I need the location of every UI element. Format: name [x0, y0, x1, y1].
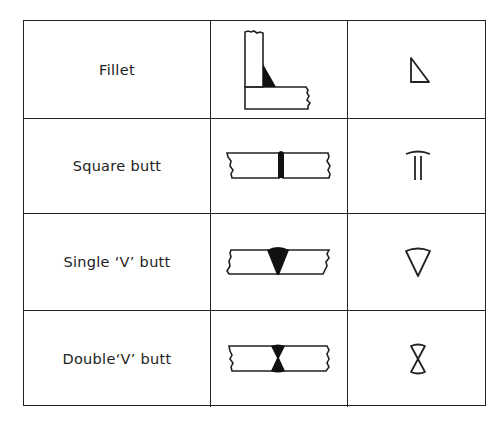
- fillet-weld-sketch-icon: [224, 24, 334, 116]
- single-v-symbol-icon: [398, 242, 438, 282]
- fillet-symbol-triangle-icon: [398, 50, 438, 90]
- symbol-cell: [347, 21, 487, 118]
- weld-type-cell: Fillet: [24, 21, 210, 118]
- symbol-cell: [347, 119, 487, 213]
- table-row-square-butt: Square butt: [24, 118, 485, 213]
- table-row-single-v-butt: Single ‘V’ butt: [24, 213, 485, 310]
- symbol-cell: [347, 214, 487, 310]
- weld-type-label: Fillet: [99, 62, 135, 78]
- weld-type-label: Double‘V’ butt: [62, 351, 171, 367]
- symbol-cell: [347, 311, 487, 407]
- double-v-butt-weld-sketch-icon: [219, 329, 339, 389]
- table-row-fillet: Fillet: [24, 21, 485, 118]
- square-butt-weld-sketch-icon: [219, 136, 339, 196]
- weld-type-cell: Square butt: [24, 119, 210, 213]
- single-v-butt-weld-sketch-icon: [219, 232, 339, 292]
- table-row-double-v-butt: Double‘V’ butt: [24, 310, 485, 407]
- weld-type-cell: Single ‘V’ butt: [24, 214, 210, 310]
- sketch-cell: [210, 311, 347, 407]
- sketch-cell: [210, 214, 347, 310]
- weld-type-label: Square butt: [73, 158, 162, 174]
- weld-symbols-table: Fillet Square butt: [23, 20, 486, 406]
- square-butt-symbol-icon: [398, 146, 438, 186]
- weld-type-cell: Double‘V’ butt: [24, 311, 210, 407]
- weld-type-label: Single ‘V’ butt: [63, 254, 170, 270]
- sketch-cell: [210, 21, 347, 118]
- sketch-cell: [210, 119, 347, 213]
- double-v-symbol-icon: [398, 339, 438, 379]
